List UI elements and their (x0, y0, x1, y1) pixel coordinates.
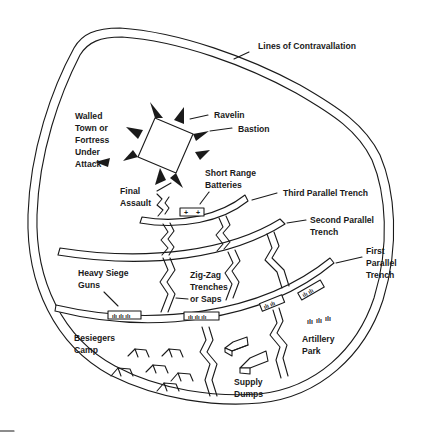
ravelin-icon (174, 107, 184, 124)
arrow-short-range-batteries (200, 192, 209, 204)
svg-text:Park: Park (302, 346, 321, 356)
label-artillery-park: Artillery Park (302, 334, 335, 356)
bastion-spike (193, 131, 209, 141)
label-third-parallel: Third Parallel Trench (283, 188, 368, 198)
arrow-bastion (210, 128, 232, 131)
siege-diagram: Lines of Contravallation Walled Town or … (0, 0, 421, 436)
arrow-ravelin (190, 115, 208, 119)
supply-dump-icons (225, 337, 268, 374)
svg-text:or Saps: or Saps (190, 294, 222, 304)
svg-text:ılı: ılı (325, 315, 331, 322)
svg-text:Town or: Town or (75, 123, 108, 133)
label-ravelin: Ravelin (214, 110, 245, 120)
artillery-park-icons: ılı ılı ılı (307, 315, 331, 325)
svg-text:Besiegers: Besiegers (74, 333, 115, 343)
label-contravallation: Lines of Contravallation (258, 41, 356, 51)
fortress (95, 102, 210, 188)
svg-text:Parallel: Parallel (366, 258, 397, 268)
label-heavy-siege-guns: Heavy Siege Guns (78, 268, 129, 290)
arrow-heavy-siege-guns (104, 292, 118, 306)
svg-text:Attack: Attack (75, 159, 101, 169)
ravelin-icon (126, 127, 143, 139)
svg-text:Assault: Assault (120, 198, 151, 208)
arrow-final-assault (157, 183, 171, 191)
svg-text:Dumps: Dumps (234, 389, 263, 399)
label-supply-dumps: Supply Dumps (234, 377, 263, 399)
arrow-first-parallel (336, 257, 362, 263)
svg-text:Final: Final (120, 186, 140, 196)
svg-text:ılı: ılı (316, 317, 322, 324)
bastion-spike (150, 102, 163, 118)
svg-text:Walled: Walled (75, 111, 102, 121)
svg-text:+: + (196, 209, 200, 216)
svg-text:Under: Under (75, 147, 100, 157)
svg-text:Supply: Supply (234, 377, 263, 387)
arrow-second-parallel (287, 220, 306, 223)
svg-text:ılı: ılı (307, 318, 313, 325)
label-short-range-batteries: Short Range Batteries (205, 168, 256, 190)
label-besiegers-camp: Besiegers Camp (74, 333, 115, 355)
svg-text:Guns: Guns (78, 280, 100, 290)
arrow-third-parallel (252, 193, 277, 200)
svg-text:Artillery: Artillery (302, 334, 335, 344)
label-first-parallel: First Parallel Trench (366, 246, 397, 280)
label-second-parallel: Second Parallel Trench (310, 215, 374, 237)
svg-text:ılı ılı ılı: ılı ılı ılı (188, 314, 207, 320)
svg-text:Trench: Trench (366, 270, 394, 280)
label-bastion: Bastion (238, 124, 270, 134)
label-final-assault: Final Assault (120, 186, 151, 208)
svg-text:Zig-Zag: Zig-Zag (190, 270, 221, 280)
svg-text:Camp: Camp (74, 345, 98, 355)
svg-text:Second Parallel: Second Parallel (310, 215, 374, 225)
bastion-spike (170, 173, 183, 188)
svg-text:+: + (184, 209, 188, 216)
svg-text:Fortress: Fortress (75, 135, 110, 145)
svg-text:Heavy Siege: Heavy Siege (78, 268, 129, 278)
svg-text:ılı ılı ılı: ılı ılı ılı (112, 313, 131, 319)
arrow-zigzag (176, 298, 188, 299)
ravelin-icon (195, 150, 210, 160)
svg-text:Batteries: Batteries (205, 180, 242, 190)
ravelin-icon (155, 168, 166, 185)
svg-text:Trenches: Trenches (190, 282, 228, 292)
bastion-spike (123, 150, 138, 161)
label-zigzag-trenches: Zig-Zag Trenches or Saps (190, 270, 228, 304)
svg-text:Trench: Trench (310, 227, 338, 237)
svg-text:First: First (366, 246, 385, 256)
svg-text:Short Range: Short Range (205, 168, 256, 178)
